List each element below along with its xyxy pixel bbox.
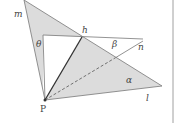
label-P: P [40,104,46,114]
label-l: l [146,93,149,103]
geometry-diagram: m h θ β n α l P [0,0,178,125]
label-h: h [82,25,88,35]
point-P [44,99,47,102]
label-alpha: α [126,75,132,85]
label-m: m [14,9,23,19]
label-n: n [138,42,144,52]
label-beta: β [111,39,117,49]
label-theta: θ [36,39,42,49]
